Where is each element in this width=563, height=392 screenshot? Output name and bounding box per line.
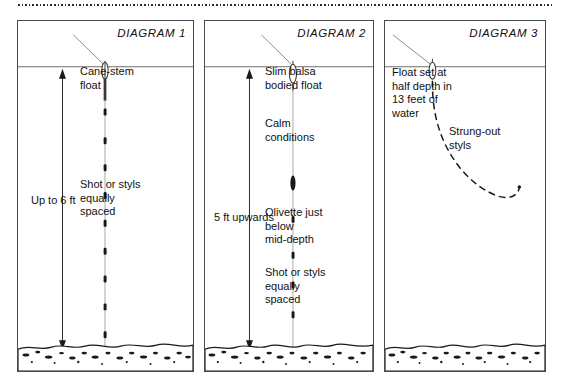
- riverbed: [205, 344, 373, 371]
- riverbed: [18, 344, 193, 371]
- rod-line: [261, 35, 293, 66]
- strung-out-styls-label: Strung-out styls: [449, 125, 500, 152]
- diagram-panel-1: DIAGRAM 1 Cane-stem float Up to 6 ft Sho…: [17, 20, 194, 372]
- diagram-1-shot-label: Shot or styls equally spaced: [80, 178, 141, 219]
- hook-end: [518, 185, 522, 189]
- depth-arrow-head-top: [59, 69, 66, 79]
- diagram-panel-3: DIAGRAM 3 Float set at half depth in 13 …: [384, 20, 546, 372]
- diagram-3-title: DIAGRAM 3: [469, 27, 538, 39]
- diagram-2-title: DIAGRAM 2: [297, 27, 366, 39]
- slim-balsa-float-label: Slim balsa bodied float: [265, 65, 322, 92]
- diagram-2-shot-label: Shot or styls equally spaced: [265, 266, 326, 307]
- depth-arrow-head-top: [246, 69, 253, 79]
- diagram-2-depth-label: 5 ft upwards: [214, 211, 274, 225]
- olivette-weight: [290, 176, 295, 191]
- diagram-1-title: DIAGRAM 1: [117, 27, 186, 39]
- cane-stem-float-label: Cane-stem float: [80, 65, 134, 92]
- diagram-1-depth-label: Up to 6 ft: [31, 194, 76, 208]
- calm-conditions-label: Calm conditions: [265, 117, 315, 144]
- rod-line: [73, 35, 105, 66]
- float-depth-label: Float set at half depth in 13 feet of wa…: [392, 66, 452, 120]
- rod-line: [393, 35, 433, 66]
- figure-page: DIAGRAM 1 Cane-stem float Up to 6 ft Sho…: [0, 0, 563, 392]
- top-dotted-rule: [18, 4, 552, 6]
- diagram-panel-2: DIAGRAM 2 Slim balsa bodied float Calm c…: [204, 20, 374, 372]
- shot-markers: [104, 109, 107, 339]
- riverbed: [385, 344, 545, 371]
